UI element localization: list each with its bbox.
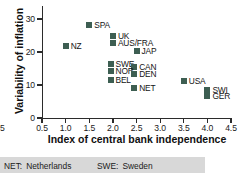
data-point-label: USA [189,76,206,86]
data-point-marker [110,33,116,39]
legend-entry-name: Sweden [122,161,152,171]
data-point-label: GER [212,91,230,101]
legend-band: NET:NetherlandsSWE:Sweden [0,157,205,173]
data-point-marker [204,93,210,99]
data-point-marker [86,22,92,28]
chart-plot-area: 0.51.01.52.02.53.03.54.04.5 0102030 5 NZ… [0,0,239,150]
data-point-marker [134,48,140,54]
legend-entry: SWE:Sweden [97,161,153,171]
data-point-label: DEN [139,69,156,79]
data-point-label: JAP [142,46,157,56]
data-point-label: NZ [71,41,82,51]
scatter-plot-figure: 0.51.01.52.02.53.03.54.04.5 0102030 5 NZ… [0,0,239,177]
data-point-marker [108,61,114,67]
y-axis-title: Variability of inflation [13,1,25,121]
data-point-marker [181,78,187,84]
legend-entry: NET:Netherlands [4,161,71,171]
legend-entry-key: NET: [4,161,22,171]
x-axis-title: Index of central bank independence [42,133,232,145]
data-point-marker [110,40,116,46]
data-point-label: BEL [116,75,131,85]
legend-entry-name: Netherlands [26,161,71,171]
data-point-marker [108,68,114,74]
data-point-marker [131,71,137,77]
data-point-marker [63,43,69,49]
data-point-label: SPA [94,20,110,30]
data-points-layer: NZSPAUKAUS/FRAJAPSWECANNORDENBELUSANETSW… [0,0,239,150]
data-point-marker [131,85,137,91]
legend-entry-key: SWE: [97,161,118,171]
data-point-label: NET [139,83,155,93]
data-point-marker [108,77,114,83]
